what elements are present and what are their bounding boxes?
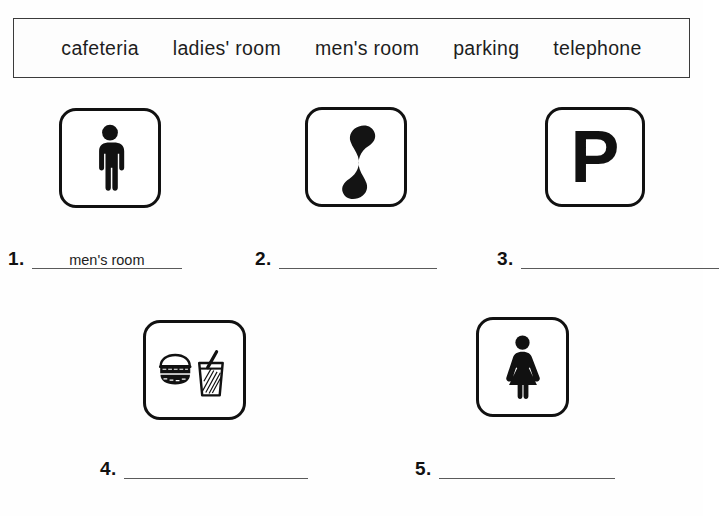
answer-item-5: 5. bbox=[415, 459, 615, 479]
answer-number-2: 2. bbox=[255, 249, 272, 269]
word-bank-item-mens-room: men's room bbox=[315, 37, 419, 60]
answer-number-3: 3. bbox=[497, 249, 514, 269]
answer-blank-2[interactable] bbox=[279, 249, 437, 269]
word-bank: cafeteria ladies' room men's room parkin… bbox=[13, 18, 690, 78]
answer-number-4: 4. bbox=[100, 459, 117, 479]
answer-item-4: 4. bbox=[100, 459, 308, 479]
word-bank-item-telephone: telephone bbox=[553, 37, 641, 60]
letter-p-icon: P bbox=[548, 110, 642, 204]
answer-number-1: 1. bbox=[8, 249, 25, 269]
icon-card-cafeteria bbox=[143, 320, 246, 420]
word-bank-item-parking: parking bbox=[453, 37, 519, 60]
icon-card-telephone bbox=[305, 107, 407, 207]
answer-blank-5[interactable] bbox=[439, 459, 615, 479]
word-bank-item-cafeteria: cafeteria bbox=[61, 37, 139, 60]
answer-number-5: 5. bbox=[415, 459, 432, 479]
answer-item-2: 2. bbox=[255, 249, 437, 269]
svg-text:P: P bbox=[571, 116, 620, 198]
answer-blank-1[interactable]: men's room bbox=[32, 249, 182, 269]
female-figure-icon bbox=[479, 320, 566, 414]
icon-card-ladies-room bbox=[476, 317, 569, 417]
answer-item-3: 3. bbox=[497, 249, 719, 269]
word-bank-item-ladies-room: ladies' room bbox=[173, 37, 281, 60]
male-figure-icon bbox=[62, 111, 158, 205]
answer-blank-4[interactable] bbox=[124, 459, 308, 479]
answer-item-1: 1. men's room bbox=[8, 249, 182, 269]
telephone-handset-icon bbox=[308, 110, 404, 204]
answer-value-1: men's room bbox=[32, 253, 182, 268]
burger-and-drink-icon bbox=[146, 323, 243, 417]
answer-blank-3[interactable] bbox=[521, 249, 719, 269]
icon-card-mens-room bbox=[59, 108, 161, 208]
icon-card-parking: P bbox=[545, 107, 645, 207]
